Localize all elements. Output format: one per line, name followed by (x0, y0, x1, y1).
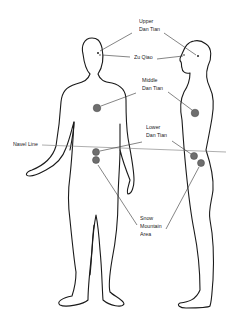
label-zu-qiao: Zu Qiao (134, 53, 153, 61)
label-upper-line1: Upper (139, 17, 160, 25)
energy-centers-diagram (0, 0, 238, 324)
lower-dan-tian-front (93, 149, 100, 156)
label-snow-line1: Snow (140, 214, 162, 222)
side-figure (178, 41, 213, 308)
zu-qiao-dot-side (183, 54, 185, 56)
label-upper-line2: Dan Tian (139, 25, 160, 33)
middle-dan-tian-side (191, 109, 199, 117)
snow-mountain-front (93, 157, 100, 164)
label-snow-mountain-area: Snow Mountain Area (140, 214, 162, 238)
label-lower-line1: Lower (146, 123, 167, 131)
label-middle-dan-tian: Middle Dan Tian (142, 76, 163, 92)
leader-zuqiao-side (157, 56, 183, 59)
label-navel-line: Navel Line (13, 140, 38, 148)
zu-qiao-dot-front (99, 54, 100, 55)
label-middle-line1: Middle (142, 76, 163, 84)
front-figure (26, 38, 134, 306)
leader-upper-side (164, 33, 196, 55)
front-inner-leg (90, 225, 94, 275)
leader-middle-side (168, 92, 192, 110)
label-snow-line3: Area (140, 230, 162, 238)
snow-mountain-side (198, 160, 205, 167)
upper-dan-tian-dot-front (97, 52, 99, 54)
upper-dan-tian-dot-side (197, 55, 199, 57)
navel-line (42, 145, 226, 152)
front-body-outline (26, 38, 134, 306)
label-snow-line2: Mountain (140, 222, 162, 230)
leader-upper-front (100, 33, 132, 51)
leader-zuqiao-front (102, 55, 130, 57)
leader-snow-side (166, 167, 199, 229)
label-lower-dan-tian: Lower Dan Tian (146, 123, 167, 139)
leader-middle-front (101, 93, 136, 106)
side-body-outline (178, 41, 213, 308)
leader-lower-front (100, 142, 142, 151)
lower-dan-tian-side (191, 153, 198, 160)
label-middle-line2: Dan Tian (142, 84, 163, 92)
leader-lower-side (172, 141, 191, 154)
label-lower-line2: Dan Tian (146, 131, 167, 139)
middle-dan-tian-front (93, 104, 101, 112)
label-upper-dan-tian: Upper Dan Tian (139, 17, 160, 33)
